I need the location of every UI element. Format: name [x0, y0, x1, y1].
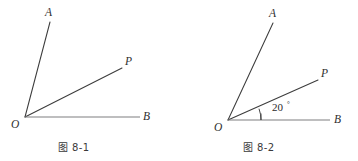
point-label-a-figure-1: A: [44, 6, 53, 18]
caption-figure-2: 图 8-2: [243, 139, 275, 154]
figure-8-1-group: A P B O: [11, 6, 150, 130]
degree-symbol-icon-figure-2: °: [287, 100, 290, 108]
point-label-p-figure-1: P: [124, 55, 132, 67]
figure-board: A P B O 20 ° A P B O 图 8-1 图 8-2: [0, 0, 358, 161]
ray-op-figure-1: [25, 68, 122, 117]
ray-oa-figure-1: [25, 22, 50, 117]
point-label-o-figure-1: O: [11, 118, 20, 130]
point-label-a-figure-2: A: [268, 7, 277, 19]
point-label-b-figure-1: B: [143, 110, 150, 122]
ray-oa-figure-2: [228, 23, 273, 120]
geometry-diagram-canvas: A P B O 20 ° A P B O: [0, 0, 358, 161]
caption-figure-1: 图 8-1: [58, 139, 90, 154]
point-label-o-figure-2: O: [214, 121, 223, 133]
ray-op-figure-2: [228, 80, 318, 120]
point-label-p-figure-2: P: [320, 67, 328, 79]
point-label-b-figure-2: B: [334, 113, 341, 125]
figure-8-2-group: 20 ° A P B O: [214, 7, 341, 133]
angle-value-figure-2: 20: [272, 101, 284, 113]
